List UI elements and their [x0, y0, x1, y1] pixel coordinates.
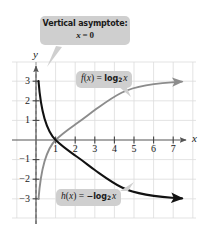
f-log-base: 2	[118, 76, 122, 83]
x-axis-label: x	[192, 132, 197, 144]
x-tick-label-4: 4	[108, 143, 120, 154]
function-label-f: f(x) = log2 x	[76, 71, 132, 88]
h-operand: x	[112, 191, 116, 201]
x-tick-label-5: 5	[128, 143, 140, 154]
x-tick-label-3: 3	[89, 143, 101, 154]
x-tick-label-7: 7	[167, 143, 179, 154]
f-log-word: log	[104, 74, 118, 83]
x-tick-label-2: 2	[69, 143, 81, 154]
asymptote-eq: = 0	[80, 30, 93, 40]
y-tick-label-neg1: −1	[12, 153, 30, 164]
y-tick-label-1: 1	[18, 114, 30, 125]
h-log-base: 2	[107, 194, 111, 201]
h-log-word: log	[93, 192, 107, 201]
function-label-h: h(x) = −log2 x	[56, 189, 121, 206]
f-equals: =	[94, 73, 104, 83]
y-tick-label-neg2: −2	[12, 173, 30, 184]
h-equals: =	[76, 191, 86, 201]
figure-container: Vertical asymptote: x = 0 f(x) = log2 x …	[0, 0, 208, 231]
x-tick-label-1: 1	[50, 143, 62, 154]
y-axis-label: y	[33, 48, 38, 60]
vertical-asymptote-callout: Vertical asymptote: x = 0	[40, 16, 130, 45]
f-operand: x	[123, 73, 127, 83]
x-tick-label-6: 6	[148, 143, 160, 154]
asymptote-callout-line1: Vertical asymptote:	[43, 19, 128, 28]
asymptote-callout-line2: x = 0	[40, 30, 130, 41]
y-tick-label-neg3: −3	[12, 193, 30, 204]
y-tick-label-2: 2	[18, 95, 30, 106]
y-tick-label-3: 3	[18, 75, 30, 86]
